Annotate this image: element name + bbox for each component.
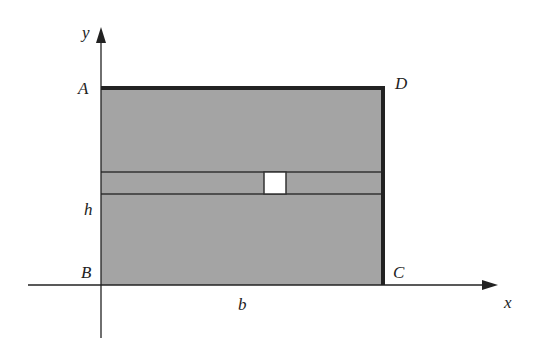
height-label: h xyxy=(84,201,93,218)
vertex-B-label: B xyxy=(81,264,91,281)
vertex-C-label: C xyxy=(393,264,404,281)
element-square xyxy=(264,172,286,194)
x-axis-label: x xyxy=(504,294,512,311)
vertex-D-label: D xyxy=(395,75,407,92)
base-label: b xyxy=(238,296,247,313)
vertex-A-label: A xyxy=(78,80,88,97)
y-axis-label: y xyxy=(82,24,90,41)
diagram-canvas xyxy=(0,0,549,351)
shaded-rectangle xyxy=(101,88,383,285)
x-axis-arrow-icon xyxy=(482,280,498,290)
y-axis-arrow-icon xyxy=(96,27,106,43)
